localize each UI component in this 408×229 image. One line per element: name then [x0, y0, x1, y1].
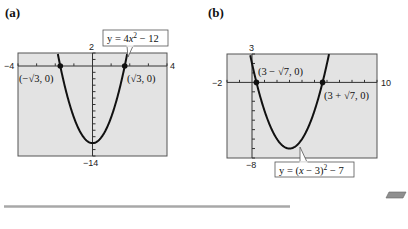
- x-min-label-a: −4: [4, 61, 14, 71]
- x-max-label-a: 4: [170, 61, 175, 71]
- figure-canvas: (a) −4 4 2 −14 (−√3, 0) (√3, 0) y = 4x2 …: [0, 0, 408, 229]
- x-intercept-right-a: [122, 63, 128, 69]
- equation-label-a: y = 4x2 − 12: [107, 31, 159, 44]
- panel-a-label: (a): [5, 5, 20, 20]
- panel-b: (b) −2 10 3 −8 (3 − √7, 0) (3 + √7, 0) y…: [208, 5, 391, 177]
- x-intercept-left-a: [58, 63, 64, 69]
- x-intercept-left-b: [254, 80, 260, 86]
- y-max-label-b: 3: [249, 43, 254, 53]
- point-label-right-a: (√3, 0): [127, 73, 156, 85]
- y-min-label-b: −8: [246, 160, 256, 170]
- parallelogram-marker-icon: [386, 192, 406, 198]
- y-max-label-a: 2: [89, 42, 94, 52]
- y-min-label-a: −14: [83, 158, 98, 168]
- x-intercept-right-b: [320, 80, 326, 86]
- point-label-left-a: (−√3, 0): [19, 73, 54, 85]
- point-label-left-b: (3 − √7, 0): [258, 66, 303, 78]
- panel-a: (a) −4 4 2 −14 (−√3, 0) (√3, 0) y = 4x2 …: [4, 5, 175, 168]
- equation-label-b: y = (x − 3)2 − 7: [279, 163, 344, 177]
- x-min-label-b: −2: [212, 78, 222, 88]
- panel-b-label: (b): [208, 5, 224, 20]
- x-max-label-b: 10: [381, 78, 391, 88]
- point-label-right-b: (3 + √7, 0): [324, 90, 369, 102]
